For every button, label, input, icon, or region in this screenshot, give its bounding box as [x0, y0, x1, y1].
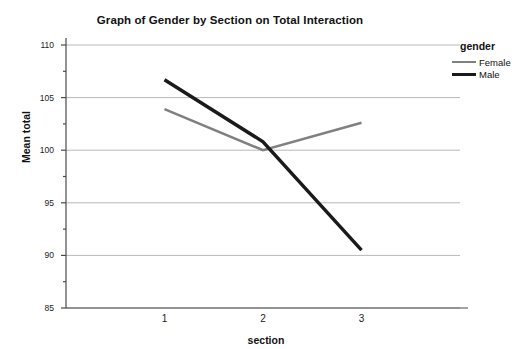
legend-swatch-female-icon: [452, 61, 476, 63]
x-tick-label: 1: [150, 313, 180, 324]
y-tick-label: 105: [28, 93, 54, 103]
axis-group: [66, 38, 468, 308]
plot-area: [0, 0, 523, 349]
legend: gender Female Male: [452, 40, 523, 80]
legend-item-female[interactable]: Female: [452, 56, 523, 68]
chart-container: Graph of Gender by Section on Total Inte…: [0, 0, 523, 349]
x-tick-label: 2: [248, 313, 278, 324]
legend-swatch-male-icon: [452, 73, 476, 76]
y-tick-label: 110: [28, 40, 54, 50]
legend-label-male: Male: [479, 69, 500, 80]
y-tick-label: 90: [28, 250, 54, 260]
y-tick-group: [61, 45, 66, 308]
legend-label-female: Female: [479, 57, 511, 68]
gridline-group: [66, 45, 460, 308]
y-tick-label: 100: [28, 145, 54, 155]
series-line-male[interactable]: [165, 80, 362, 250]
y-tick-label: 85: [28, 303, 54, 313]
legend-title: gender: [460, 40, 523, 52]
y-tick-label: 95: [28, 198, 54, 208]
legend-item-male[interactable]: Male: [452, 68, 523, 80]
series-group: [165, 80, 362, 250]
x-tick-label: 3: [347, 313, 377, 324]
